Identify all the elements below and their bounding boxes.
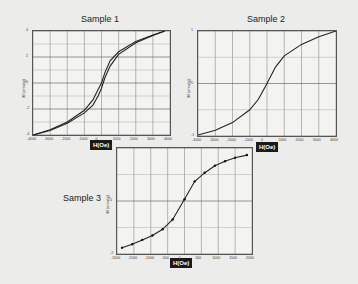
- x-tick-label: 2000: [246, 256, 254, 260]
- x-tick-label: 1000: [278, 138, 286, 142]
- x-tick-label: 0: [261, 138, 263, 142]
- x-tick-label: -2000: [61, 137, 70, 141]
- y-tick-label: -1: [191, 133, 194, 137]
- x-tick-label: -4000: [192, 138, 201, 142]
- x-tick-label: 4000: [164, 137, 172, 141]
- x-axis-label: H(Oe): [90, 140, 112, 150]
- data-point: [246, 154, 248, 156]
- y-tick-label: -4: [26, 132, 29, 136]
- y-tick-label: 2: [110, 145, 112, 149]
- data-point: [151, 234, 153, 236]
- data-point: [234, 157, 236, 159]
- x-tick-label: 2000: [296, 138, 304, 142]
- x-tick-label: -1000: [244, 138, 253, 142]
- data-point: [183, 198, 185, 200]
- data-point: [121, 247, 123, 249]
- y-tick-label: 4: [26, 28, 28, 32]
- y-tick-label: 0: [110, 198, 112, 202]
- y-tick-label: -2: [110, 251, 113, 255]
- y-tick-label: 2: [26, 54, 28, 58]
- plot-svg: [33, 31, 170, 135]
- y-axis-label: M (emu/g): [186, 68, 191, 98]
- y-tick-label: -2: [26, 106, 29, 110]
- data-point: [161, 228, 163, 230]
- x-tick-label: 1000: [113, 137, 121, 141]
- x-tick-label: 500: [195, 256, 201, 260]
- data-point: [171, 218, 173, 220]
- chart-title: Sample 3: [52, 193, 112, 203]
- x-tick-label: 4000: [330, 138, 338, 142]
- x-tick-label: -3000: [44, 137, 53, 141]
- x-tick-label: -2000: [111, 256, 120, 260]
- x-axis-label: H(Oe): [170, 258, 192, 268]
- plot-area: [197, 30, 337, 137]
- x-tick-label: 3000: [313, 138, 321, 142]
- x-tick-label: -1500: [128, 256, 137, 260]
- x-tick-label: 1000: [212, 256, 220, 260]
- chart-title: Sample 1: [60, 14, 140, 24]
- plot-area: [116, 147, 253, 255]
- plot-area: [32, 30, 171, 136]
- data-point: [204, 172, 206, 174]
- x-tick-label: -2000: [227, 138, 236, 142]
- y-axis-label: M (emu/g): [21, 68, 26, 98]
- data-point: [214, 164, 216, 166]
- y-tick-label: 0: [191, 81, 193, 85]
- x-tick-label: 0: [179, 256, 181, 260]
- plot-svg: [117, 148, 252, 254]
- chart-title: Sample 2: [226, 14, 306, 24]
- x-tick-label: -500: [162, 256, 169, 260]
- data-point: [131, 243, 133, 245]
- data-point: [193, 180, 195, 182]
- data-point: [141, 239, 143, 241]
- x-tick-label: 2000: [130, 137, 138, 141]
- x-tick-label: -1000: [145, 256, 154, 260]
- x-tick-label: -3000: [209, 138, 218, 142]
- y-tick-label: 0: [26, 80, 28, 84]
- plot-svg: [198, 31, 336, 136]
- y-tick-label: 1: [191, 28, 193, 32]
- x-tick-label: 1500: [229, 256, 237, 260]
- x-tick-label: 3000: [147, 137, 155, 141]
- x-axis-label: H(Oe): [256, 142, 278, 152]
- x-tick-label: -1000: [78, 137, 87, 141]
- y-axis-label: M (emu/g): [105, 184, 110, 214]
- x-tick-label: 0: [96, 137, 98, 141]
- data-point: [224, 160, 226, 162]
- x-tick-label: -4000: [27, 137, 36, 141]
